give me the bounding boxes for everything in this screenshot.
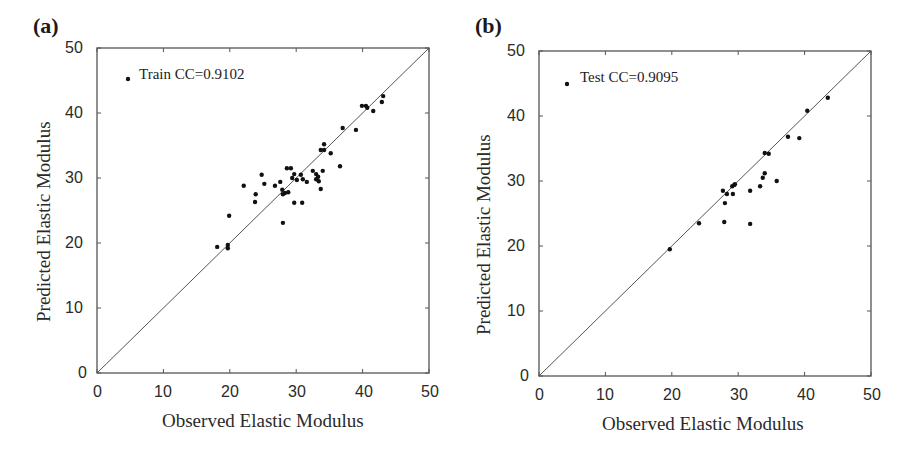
legend-marker [565, 82, 569, 86]
y-tick-40: 40 [507, 108, 525, 124]
data-point [725, 192, 729, 196]
x-tick-30: 30 [730, 387, 748, 403]
legend-test-cc: Test CC=0.9095 [580, 69, 678, 86]
data-point [786, 135, 790, 139]
panel-b: (b) Test CC=0.9095 50 40 30 20 10 0 0 10… [0, 0, 908, 458]
x-tick-0: 0 [535, 387, 544, 403]
scatter-plot-test [0, 0, 908, 458]
data-point [763, 151, 767, 155]
x-tick-40: 40 [797, 387, 815, 403]
data-point [723, 201, 727, 205]
data-point [761, 176, 765, 180]
data-point [668, 247, 672, 251]
data-point [731, 192, 735, 196]
data-point [826, 96, 830, 100]
data-point [733, 182, 737, 186]
data-point [748, 222, 752, 226]
data-point [722, 220, 726, 224]
data-point [721, 189, 725, 193]
reference-line [539, 51, 871, 376]
x-axis-label: Observed Elastic Modulus [602, 413, 804, 435]
x-tick-20: 20 [663, 387, 681, 403]
x-tick-50: 50 [863, 387, 881, 403]
y-tick-30: 30 [507, 173, 525, 189]
y-axis-label: Predicted Elastic Modulus [473, 134, 495, 335]
y-tick-50: 50 [507, 43, 525, 59]
data-point [763, 171, 767, 175]
data-point [758, 184, 762, 188]
data-point [775, 179, 779, 183]
data-point [797, 136, 801, 140]
data-point [767, 152, 771, 156]
data-point [805, 109, 809, 113]
y-tick-0: 0 [520, 368, 529, 384]
data-point [697, 221, 701, 225]
y-tick-20: 20 [507, 238, 525, 254]
x-tick-10: 10 [596, 387, 614, 403]
y-tick-10: 10 [507, 303, 525, 319]
data-point [748, 189, 752, 193]
